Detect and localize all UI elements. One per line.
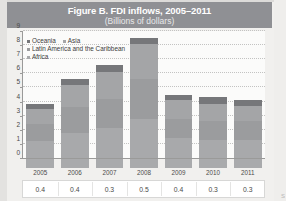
x-axis-chip-2011 xyxy=(234,159,262,168)
legend-swatch-icon-asia xyxy=(63,40,66,43)
bar-segment-2007-africa xyxy=(96,128,124,158)
y-axis-tick-8: 8 xyxy=(16,36,20,43)
bar-segment-2010-asia xyxy=(199,104,227,121)
data-value-2005: 0.4 xyxy=(23,181,58,197)
bar-segment-2007-latin-america-and-the-caribbean xyxy=(96,99,124,129)
bar-2005 xyxy=(26,104,54,158)
legend-label-asia: Asia xyxy=(68,37,80,45)
y-axis-tick-7: 7 xyxy=(16,50,20,57)
bar-segment-2010-africa xyxy=(199,140,227,158)
bar-2006 xyxy=(61,79,89,158)
data-value-2007: 0.3 xyxy=(92,181,127,197)
y-axis-tick-9: 9 xyxy=(16,22,20,29)
legend-label-africa: Africa xyxy=(32,53,48,61)
bar-segment-2011-africa xyxy=(234,140,262,158)
bar-segment-2007-asia xyxy=(96,72,124,99)
legend-swatch-icon-lac xyxy=(27,48,30,51)
legend-swatch-icon-oceania xyxy=(27,40,30,43)
legend-label-lac: Latin America and the Caribbean xyxy=(32,45,125,53)
left-page-edge xyxy=(0,0,7,201)
x-axis-labels: 2005200620072008200920102011 xyxy=(22,169,265,179)
figure-container: Figure B. FDI inflows, 2005–2011 (Billio… xyxy=(0,0,286,201)
data-value-row: 0.40.40.30.50.40.30.3 xyxy=(22,180,265,198)
y-axis-tick-4: 4 xyxy=(16,92,20,99)
y-axis-tick-3: 3 xyxy=(16,106,20,113)
bar-segment-2010-latin-america-and-the-caribbean xyxy=(199,121,227,139)
y-axis-tick-2: 2 xyxy=(16,120,20,127)
data-value-2009: 0.4 xyxy=(161,181,196,197)
legend-item-africa: Africa xyxy=(27,53,48,61)
x-axis-chip-2010 xyxy=(199,159,227,168)
figure-subtitle: (Billions of dollars) xyxy=(105,16,174,26)
legend-item-lac: Latin America and the Caribbean xyxy=(27,45,125,53)
bar-segment-2006-africa xyxy=(61,133,89,158)
bar-segment-2008-latin-america-and-the-caribbean xyxy=(130,79,158,119)
bar-segment-2011-asia xyxy=(234,106,262,122)
x-axis-band xyxy=(22,159,265,168)
data-value-separator-4 xyxy=(161,182,162,196)
bar-2010 xyxy=(199,97,227,158)
x-axis-label-2010: 2010 xyxy=(196,169,231,176)
x-axis-chip-2008 xyxy=(130,159,158,168)
legend-item-oceania: Oceania xyxy=(27,37,56,45)
data-value-separator-2 xyxy=(92,182,93,196)
legend-swatch-icon-africa xyxy=(27,56,30,59)
bar-segment-2009-latin-america-and-the-caribbean xyxy=(165,119,193,139)
x-axis-label-2011: 2011 xyxy=(230,169,265,176)
legend-row-3: Africa xyxy=(27,53,177,61)
x-axis-chip-2005 xyxy=(26,159,54,168)
data-value-2008: 0.5 xyxy=(127,181,162,197)
legend-row-2: Latin America and the Caribbean xyxy=(27,45,177,53)
data-value-separator-6 xyxy=(230,182,231,196)
bar-segment-2006-latin-america-and-the-caribbean xyxy=(61,107,89,132)
bar-segment-2008-africa xyxy=(130,119,158,159)
x-axis-label-2005: 2005 xyxy=(23,169,58,176)
data-value-2006: 0.4 xyxy=(58,181,93,197)
x-axis-label-2008: 2008 xyxy=(127,169,162,176)
bar-2011 xyxy=(234,100,262,158)
legend-item-asia: Asia xyxy=(63,37,80,45)
data-value-separator-1 xyxy=(58,182,59,196)
data-value-2010: 0.3 xyxy=(196,181,231,197)
bar-2007 xyxy=(96,65,124,158)
x-axis-chip-2009 xyxy=(165,159,193,168)
bar-segment-2005-asia xyxy=(26,109,54,125)
bar-segment-2006-asia xyxy=(61,85,89,108)
bar-segment-2007-oceania xyxy=(96,65,124,72)
x-axis-label-2007: 2007 xyxy=(92,169,127,176)
figure-title: Figure B. FDI inflows, 2005–2011 xyxy=(68,5,212,16)
bar-segment-2011-latin-america-and-the-caribbean xyxy=(234,121,262,139)
x-axis-chip-2006 xyxy=(61,159,89,168)
chart-legend: Oceania Asia Latin America and the Carib… xyxy=(27,37,177,62)
data-value-separator-5 xyxy=(196,182,197,196)
y-axis-tick-0: 0 xyxy=(16,149,20,156)
bar-segment-2010-oceania xyxy=(199,97,227,104)
data-value-separator-3 xyxy=(127,182,128,196)
right-page-edge xyxy=(274,0,286,201)
bar-2009 xyxy=(165,95,193,158)
data-value-2011: 0.3 xyxy=(230,181,265,197)
bar-segment-2005-latin-america-and-the-caribbean xyxy=(26,124,54,141)
legend-label-oceania: Oceania xyxy=(32,37,56,45)
figure-title-band: Figure B. FDI inflows, 2005–2011 (Billio… xyxy=(7,2,272,28)
corner-scrap-text: S xyxy=(281,193,285,199)
y-axis-tick-1: 1 xyxy=(16,134,20,141)
x-axis-label-2006: 2006 xyxy=(58,169,93,176)
legend-row-1: Oceania Asia xyxy=(27,37,177,45)
bar-segment-2009-asia xyxy=(165,100,193,118)
bar-segment-2009-africa xyxy=(165,138,193,158)
y-axis-tick-6: 6 xyxy=(16,64,20,71)
y-axis: 9876543210 xyxy=(8,31,22,159)
x-axis-label-2009: 2009 xyxy=(161,169,196,176)
x-axis-chip-2007 xyxy=(96,159,124,168)
y-axis-tick-5: 5 xyxy=(16,78,20,85)
bar-segment-2005-africa xyxy=(26,141,54,158)
